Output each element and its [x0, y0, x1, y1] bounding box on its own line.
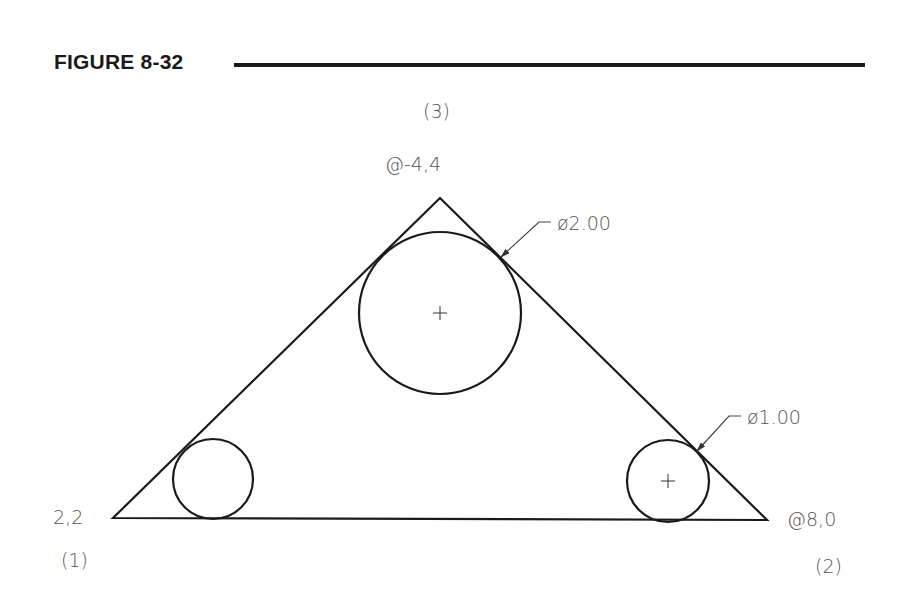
center-mark-icon	[433, 306, 447, 320]
dimension-small-circle: ø1.00	[747, 406, 801, 428]
leader-big-circle	[501, 222, 551, 257]
point-3-coords: @-4,4	[385, 153, 441, 175]
small-right-circle	[627, 440, 709, 522]
small-left-circle	[173, 439, 253, 519]
point-3-order: (3)	[423, 100, 450, 122]
large-inscribed-circle	[359, 232, 521, 394]
leader-small-circle	[697, 416, 741, 451]
triangle	[113, 198, 767, 520]
point-2-order: (2)	[815, 555, 842, 577]
cad-drawing: ø2.00 ø1.00 (3) @-4,4 2,2 (1) @8,0 (2)	[0, 0, 904, 616]
point-1-coords: 2,2	[53, 506, 83, 528]
point-2-coords: @8,0	[787, 508, 836, 530]
dimension-big-circle: ø2.00	[557, 212, 611, 234]
center-mark-icon	[661, 474, 675, 488]
point-1-order: (1)	[61, 549, 88, 571]
